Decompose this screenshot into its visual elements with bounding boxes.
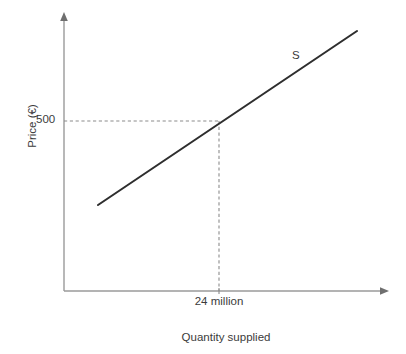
x-axis-title: Quantity supplied	[182, 332, 271, 344]
supply-curve-label: S	[292, 50, 300, 62]
y-axis-title: Price (€)	[27, 91, 43, 161]
x-axis-tick-label-24-million: 24 million	[195, 296, 244, 308]
supply-curve-line	[98, 31, 357, 205]
supply-curve-chart: 500 24 million S Quantity supplied Price…	[0, 0, 406, 354]
x-axis-arrowhead	[380, 287, 389, 295]
y-axis-arrowhead	[60, 12, 68, 21]
